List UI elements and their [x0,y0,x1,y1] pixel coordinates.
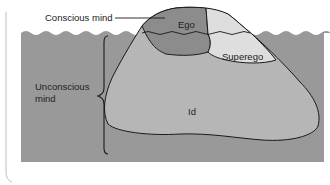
label-unconscious-line2: mind [35,93,56,104]
label-conscious-mind: Conscious mind [45,12,113,23]
label-superego: Superego [222,51,263,62]
label-id: Id [188,106,196,117]
label-ego: Ego [178,19,195,30]
iceberg-diagram: Conscious mind Unconscious mind Ego Supe… [0,0,330,185]
label-unconscious-line1: Unconscious [35,81,90,92]
page-margin-line [6,12,12,182]
